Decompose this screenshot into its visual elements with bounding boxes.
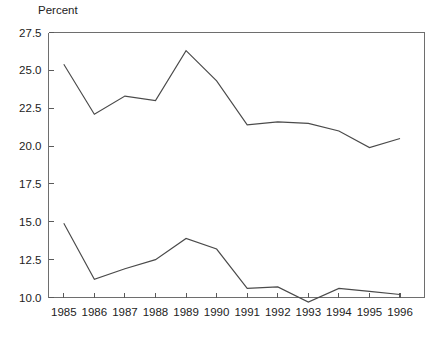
x-tick-label: 1985 (51, 306, 77, 318)
x-tick-label: 1990 (204, 306, 230, 318)
y-tick-label: 20.0 (19, 140, 41, 152)
y-axis-tick-labels: 10.012.515.017.520.022.525.027.5 (19, 27, 41, 304)
series-line-upper-series (64, 51, 400, 148)
x-tick-label: 1987 (112, 306, 138, 318)
x-tick-label: 1996 (387, 306, 413, 318)
y-tick-label: 27.5 (19, 27, 41, 39)
x-tick-label: 1993 (296, 306, 322, 318)
y-tick-label: 17.5 (19, 178, 41, 190)
line-chart: 10.012.515.017.520.022.525.027.5 1985198… (0, 0, 442, 343)
y-tick-label: 12.5 (19, 254, 41, 266)
x-tick-label: 1991 (234, 306, 260, 318)
x-tick-label: 1989 (173, 306, 199, 318)
x-tick-label: 1986 (82, 306, 108, 318)
tick-marks (49, 33, 401, 298)
y-tick-label: 22.5 (19, 102, 41, 114)
y-tick-label: 25.0 (19, 64, 41, 76)
chart-container: 10.012.515.017.520.022.525.027.5 1985198… (0, 0, 442, 343)
y-tick-label: 15.0 (19, 216, 41, 228)
x-tick-label: 1988 (143, 306, 169, 318)
series-line-lower-series (64, 223, 400, 302)
x-tick-label: 1992 (265, 306, 291, 318)
y-axis-title: Percent (38, 4, 78, 16)
x-axis-tick-labels: 1985198619871988198919901991199219931994… (51, 306, 413, 318)
data-series (64, 51, 400, 302)
x-tick-label: 1995 (357, 306, 383, 318)
y-tick-label: 10.0 (19, 292, 41, 304)
x-tick-label: 1994 (326, 306, 352, 318)
axes (49, 33, 425, 298)
